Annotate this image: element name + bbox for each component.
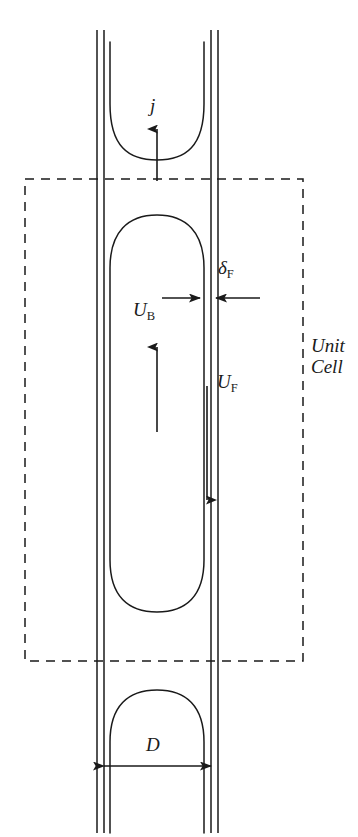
film-thickness-symbol: δ [218,257,227,278]
bubble-velocity-label: UB [133,300,155,323]
bubble-velocity-symbol: U [133,299,147,320]
unit-cell-label-line1: Unit [311,336,345,357]
film-thickness-label: δF [218,258,234,281]
bubble-velocity-subscript: B [147,309,156,323]
taylor-bubble-diagram: j δF UB UF Unit Cell D [0,0,358,837]
unit-cell-label: Unit Cell [311,336,345,377]
tube-diameter-label: D [146,735,160,756]
unit-cell-boundary [25,179,303,661]
tube-diameter-symbol: D [146,734,160,755]
superficial-velocity-label: j [150,96,155,117]
film-thickness-subscript: F [227,267,234,281]
film-velocity-label: UF [217,372,238,395]
film-velocity-subscript: F [231,381,238,395]
superficial-velocity-symbol: j [150,95,155,116]
film-velocity-symbol: U [217,371,231,392]
unit-cell-label-line2: Cell [311,357,345,378]
lower-bubble-nose [110,690,204,833]
diagram-canvas [0,0,358,837]
